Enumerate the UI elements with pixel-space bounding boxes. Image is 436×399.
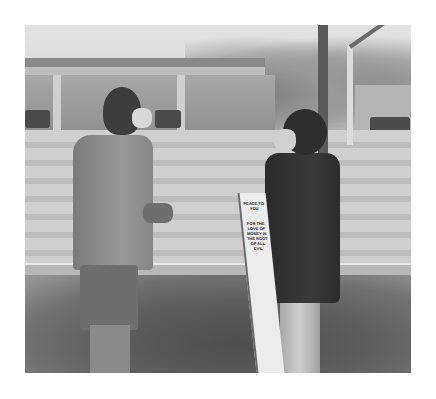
sign-text-line1: PEACE TO YOU — [240, 201, 267, 211]
gas-station-canopy — [25, 58, 265, 67]
man-hands — [143, 203, 173, 223]
parked-car — [155, 110, 181, 128]
man-legs — [90, 325, 130, 373]
man-face-mask — [132, 108, 152, 128]
woman-jacket — [265, 153, 340, 303]
woman-pants — [280, 295, 320, 373]
canopy-pillar — [53, 75, 61, 130]
man-shorts — [80, 265, 138, 330]
man-shirt — [73, 135, 153, 270]
canopy-underside — [25, 67, 265, 75]
sign-text-line2: FOR THE LOVE OF MONEY IS THE ROOT OF ALL… — [242, 221, 271, 251]
signal-pole — [347, 45, 353, 145]
woman-face-mask — [274, 129, 296, 151]
parked-car — [25, 110, 50, 128]
photograph: PEACE TO YOU FOR THE LOVE OF MONEY IS TH… — [25, 25, 411, 373]
